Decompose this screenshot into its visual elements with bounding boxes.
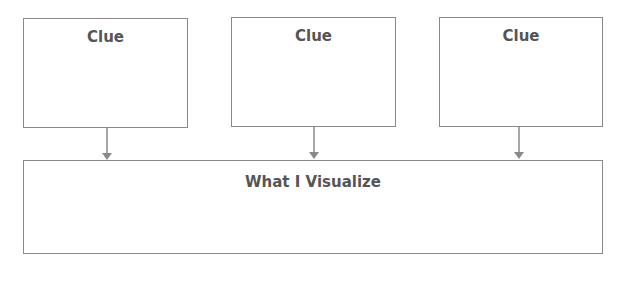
- arrow-head-2: [309, 152, 319, 159]
- arrow-head-1: [102, 153, 112, 160]
- arrow-head-3: [514, 152, 524, 159]
- connector-arrows: [0, 0, 624, 283]
